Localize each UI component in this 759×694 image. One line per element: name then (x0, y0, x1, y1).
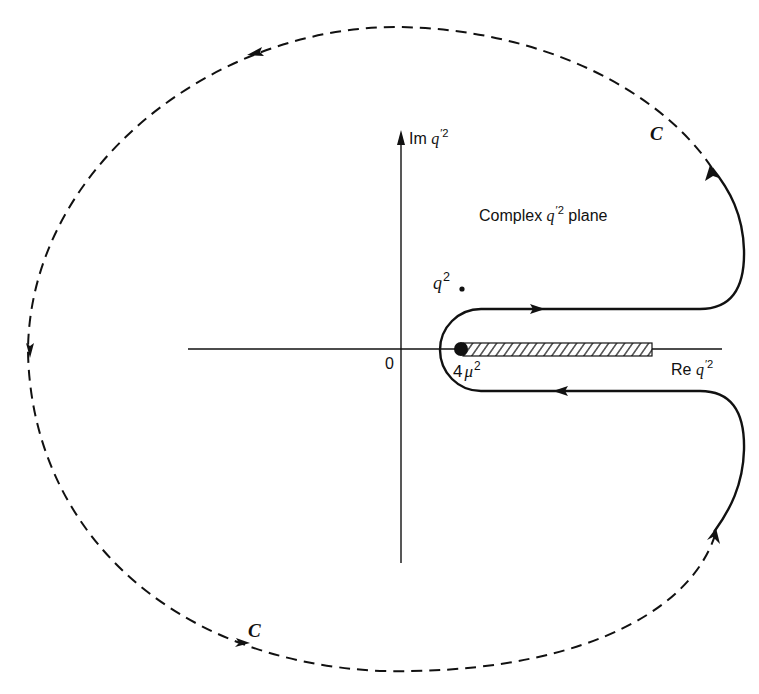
contour-label-bottom: C (248, 620, 261, 642)
branch-point-label: 4μ2 (453, 359, 481, 382)
branch-cut (463, 343, 652, 356)
pole-dot (459, 286, 464, 291)
pole-label: q2 (433, 270, 450, 294)
imaginary-axis (397, 130, 405, 563)
plane-label: Complex q′2 plane (479, 204, 608, 225)
origin-label: 0 (385, 355, 394, 373)
branch-point-dot (454, 342, 468, 356)
im-axis-label: Im q′2 (409, 127, 449, 148)
re-axis-label: Re q′2 (671, 358, 713, 379)
contour-label-top: C (650, 123, 663, 145)
contour-diagram (0, 0, 759, 694)
axis-arrow-icon (397, 130, 405, 145)
